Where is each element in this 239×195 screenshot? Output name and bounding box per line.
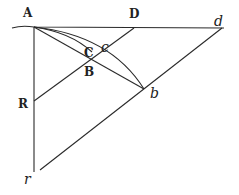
- line-r-d: [40, 28, 222, 170]
- label-B: B: [84, 65, 94, 79]
- label-r: r: [24, 171, 32, 187]
- label-A: A: [22, 6, 33, 20]
- geometry-diagram: A D d C c B b R r: [0, 0, 239, 195]
- label-d: d: [214, 13, 223, 29]
- label-c: c: [101, 39, 109, 55]
- label-C: C: [84, 46, 94, 60]
- label-D: D: [129, 7, 139, 21]
- label-b: b: [150, 85, 159, 101]
- label-R: R: [18, 97, 29, 111]
